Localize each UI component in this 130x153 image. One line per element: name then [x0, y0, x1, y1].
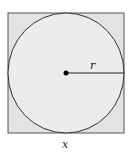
radius-label: r [90, 60, 95, 71]
side-length-label: x [62, 139, 68, 150]
center-point [64, 71, 69, 76]
diagram-canvas [0, 0, 130, 153]
circle-in-square-diagram: r x [0, 0, 130, 153]
